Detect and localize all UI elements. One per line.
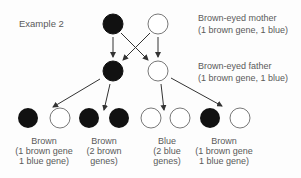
- brown-gene-icon: [103, 14, 123, 34]
- mother-label: Brown-eyed mother: [198, 13, 277, 23]
- offspring-4-label: Brown (1 brown gene 1 blue gene): [189, 136, 259, 166]
- offspring-2-genes: [79, 108, 129, 128]
- blue-gene-icon: [148, 14, 168, 34]
- example-title: Example 2: [19, 19, 64, 29]
- father-genes-label: (1 brown gene, 1 blue): [198, 73, 288, 83]
- offspring-4-color: Brown: [189, 136, 259, 146]
- offspring-4-genes-line2: 1 blue gene): [189, 156, 259, 166]
- brown-gene-icon: [109, 108, 129, 128]
- brown-gene-icon: [200, 108, 220, 128]
- father-label: Brown-eyed father: [198, 61, 272, 71]
- blue-gene-icon: [141, 108, 161, 128]
- brown-gene-icon: [103, 61, 123, 81]
- offspring-1-genes: [18, 108, 70, 128]
- offspring-2-label: Brown (2 brown genes): [69, 136, 139, 166]
- brown-gene-icon: [79, 108, 99, 128]
- offspring-arrows: [53, 78, 222, 110]
- offspring-4-genes: [200, 108, 250, 128]
- brown-gene-icon: [18, 108, 38, 128]
- inheritance-diagram: Example 2 Brown-eyed mother (1 brown gen…: [0, 0, 301, 178]
- father-genes: [103, 61, 168, 81]
- offspring-4-genes-line1: (1 brown gene: [189, 146, 259, 156]
- blue-gene-icon: [170, 108, 190, 128]
- offspring-2-genes-line1: (2 brown: [69, 146, 139, 156]
- blue-gene-icon: [230, 108, 250, 128]
- offspring-2-color: Brown: [69, 136, 139, 146]
- blue-gene-icon: [50, 108, 70, 128]
- mother-genes-label: (1 brown gene, 1 blue): [198, 25, 288, 35]
- mother-genes: [103, 14, 168, 34]
- offspring-3-genes: [141, 108, 190, 128]
- offspring-2-genes-line2: genes): [69, 156, 139, 166]
- blue-gene-icon: [148, 61, 168, 81]
- cross-arrows: [113, 33, 158, 60]
